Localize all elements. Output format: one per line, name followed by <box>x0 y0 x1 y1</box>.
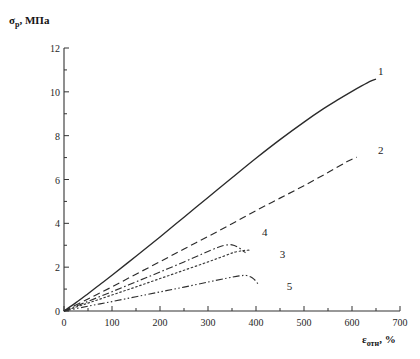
curve-label-2: 2 <box>378 144 384 156</box>
curve-2 <box>64 157 357 311</box>
curve-label-5: 5 <box>287 280 293 292</box>
x-tick-label: 600 <box>345 317 360 328</box>
stress-strain-chart: σр, МПа εотн, % 010020030040050060070002… <box>0 0 420 359</box>
y-tick-label: 0 <box>42 306 60 317</box>
curve-label-1: 1 <box>378 65 384 77</box>
x-tick-label: 700 <box>393 317 408 328</box>
x-tick-label: 300 <box>201 317 216 328</box>
x-tick-label: 0 <box>62 317 67 328</box>
y-tick-label: 8 <box>42 130 60 141</box>
y-tick-label: 2 <box>42 262 60 273</box>
y-tick-label: 12 <box>42 43 60 54</box>
x-tick-label: 500 <box>297 317 312 328</box>
curve-4 <box>64 245 245 311</box>
y-tick-label: 6 <box>42 174 60 185</box>
y-tick-label: 4 <box>42 218 60 229</box>
curve-label-3: 3 <box>280 248 286 260</box>
plot-area <box>0 0 420 359</box>
curves <box>64 79 376 311</box>
x-tick-label: 100 <box>105 317 120 328</box>
curve-5 <box>64 275 258 311</box>
y-tick-label: 10 <box>42 86 60 97</box>
axes <box>64 48 400 311</box>
curve-3 <box>64 250 251 311</box>
x-tick-label: 200 <box>153 317 168 328</box>
x-tick-label: 400 <box>249 317 264 328</box>
curve-label-4: 4 <box>262 226 268 238</box>
curve-1 <box>64 79 376 311</box>
